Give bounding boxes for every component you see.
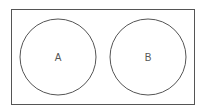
set-b-label: B <box>145 52 152 63</box>
set-a-label: A <box>55 52 62 63</box>
venn-diagram: A B <box>0 0 203 111</box>
